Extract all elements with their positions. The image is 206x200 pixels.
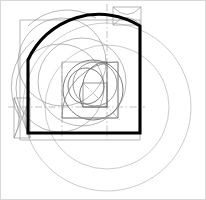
figure-root: Geometric spiral construction diagram Li… <box>0 0 206 200</box>
canvas-background <box>0 0 206 200</box>
construction-diagram-svg <box>0 0 206 200</box>
